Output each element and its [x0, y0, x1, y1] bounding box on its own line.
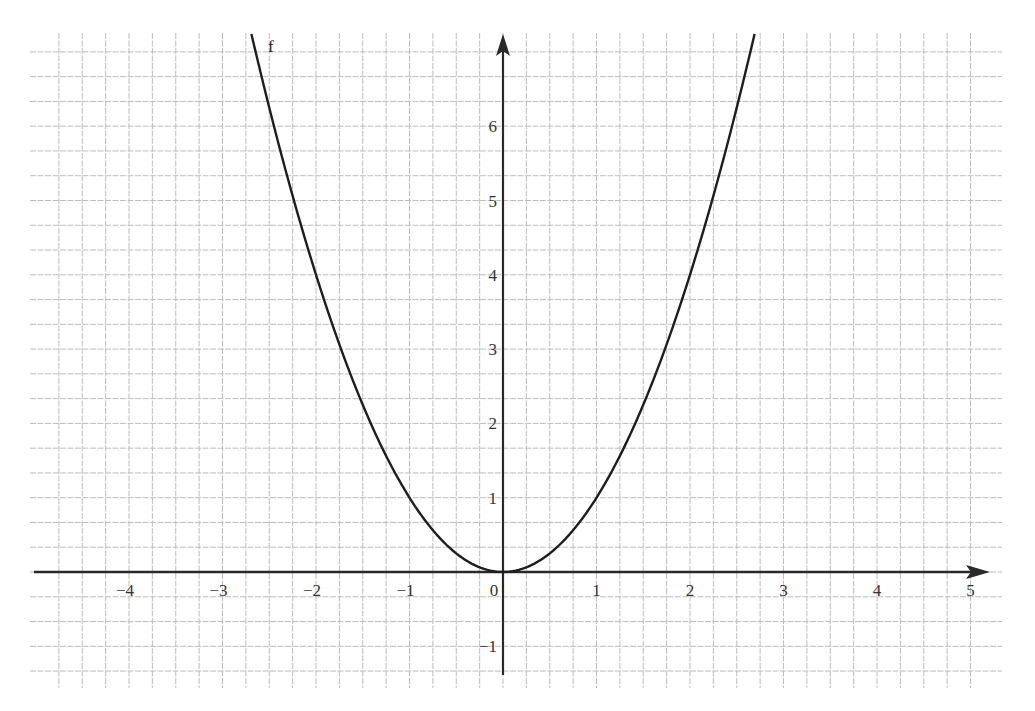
y-tick-label: −1 — [479, 637, 497, 656]
y-tick-label: 6 — [489, 117, 498, 136]
x-tick-label: −3 — [209, 581, 227, 600]
x-tick-label: −4 — [116, 581, 135, 600]
x-tick-label: 1 — [592, 581, 601, 600]
y-tick-labels: 654321−1 — [479, 117, 498, 656]
y-tick-label: 2 — [489, 414, 498, 433]
x-tick-label: 3 — [779, 581, 788, 600]
y-tick-label: 5 — [489, 192, 498, 211]
x-tick-label: 5 — [966, 581, 975, 600]
y-tick-label: 1 — [489, 489, 498, 508]
parabola-chart: −4−3−2−1012345 654321−1 f — [0, 0, 1035, 711]
x-tick-label: 4 — [873, 581, 882, 600]
x-tick-label: 2 — [686, 581, 695, 600]
x-tick-label: 0 — [490, 581, 499, 600]
grid-lines — [30, 33, 1002, 688]
y-tick-label: 3 — [489, 340, 498, 359]
axes — [34, 34, 990, 675]
x-tick-label: −2 — [303, 581, 321, 600]
function-label: f — [268, 37, 274, 56]
x-tick-label: −1 — [396, 581, 414, 600]
y-tick-label: 4 — [489, 266, 498, 285]
